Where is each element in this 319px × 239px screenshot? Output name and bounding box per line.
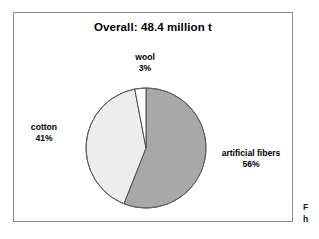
clipped-edge-caption: F h xyxy=(303,201,319,235)
pie-label-artificial-fibers-name: artificial fibers xyxy=(203,148,299,159)
pie-label-wool-name: wool xyxy=(116,52,174,63)
pie-chart-graphic xyxy=(80,82,212,214)
pie-label-wool: wool 3% xyxy=(116,52,174,74)
pie-label-artificial-fibers-value: 56% xyxy=(203,159,299,170)
pie-label-cotton-value: 41% xyxy=(13,133,75,144)
pie-label-cotton-name: cotton xyxy=(13,122,75,133)
clipped-edge-caption-line1: F xyxy=(303,201,319,213)
pie-label-artificial-fibers: artificial fibers 56% xyxy=(203,148,299,170)
clipped-edge-caption-line2: h xyxy=(303,213,319,225)
chart-title: Overall: 48.4 million t xyxy=(13,21,293,33)
pie-label-wool-value: 3% xyxy=(116,63,174,74)
pie-chart-figure: Overall: 48.4 million t wool 3% cotton 4… xyxy=(0,0,319,239)
pie-label-cotton: cotton 41% xyxy=(13,122,75,144)
